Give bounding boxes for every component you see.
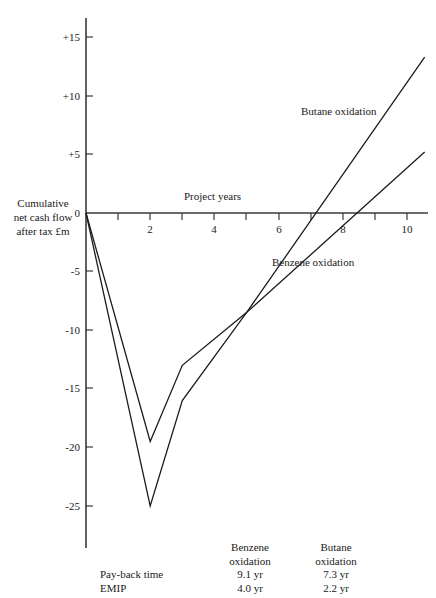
x-tick-label-4: 4 (200, 223, 228, 235)
y-tick-label-10: +10 (42, 90, 80, 102)
summary-row-label-payback: Pay-back time (100, 568, 163, 582)
y-tick-label-neg10: -10 (42, 324, 80, 336)
y-axis-title-line-3: after tax £m (4, 224, 82, 238)
summary-cell-emip-butane: 2.2 yr (300, 582, 372, 596)
summary-col-butane-header-line-1: Butane (300, 541, 372, 555)
y-tick-label-5: +5 (42, 148, 80, 160)
summary-cell-payback-butane: 7.3 yr (300, 568, 372, 582)
y-tick-label-neg25: -25 (42, 500, 80, 512)
summary-table-row-labels: Pay-back time EMIP (100, 568, 163, 595)
y-tick-label-neg15: -15 (42, 382, 80, 394)
summary-cell-emip-benzene: 4.0 yr (214, 582, 286, 596)
x-axis-title: Project years (184, 190, 241, 202)
summary-col-butane-header-line-2: oxidation (300, 555, 372, 569)
chart-figure: Cumulative net cash flow after tax £m +1… (0, 0, 436, 598)
y-tick-label-15: +15 (42, 31, 80, 43)
summary-col-benzene-header-line-1: Benzene (214, 541, 286, 555)
x-tick-label-2: 2 (136, 223, 164, 235)
summary-column-butane: Butane oxidation 7.3 yr 2.2 yr (300, 541, 372, 595)
summary-cell-payback-benzene: 9.1 yr (214, 568, 286, 582)
summary-col-benzene-header-line-2: oxidation (214, 555, 286, 569)
y-tick-label-neg20: -20 (42, 441, 80, 453)
summary-row-label-emip: EMIP (100, 582, 163, 596)
x-tick-label-8: 8 (329, 223, 357, 235)
y-tick-label-neg5: -5 (42, 265, 80, 277)
summary-column-benzene: Benzene oxidation 9.1 yr 4.0 yr (214, 541, 286, 595)
x-tick-label-6: 6 (265, 223, 293, 235)
x-axis-ticks (118, 213, 407, 220)
series-annotation-benzene: Benzene oxidation (272, 256, 354, 268)
y-axis-ticks (86, 37, 93, 506)
y-tick-label-0: 0 (42, 207, 80, 219)
series-annotation-butane: Butane oxidation (301, 105, 376, 117)
x-tick-label-10: 10 (393, 223, 421, 235)
series-line-benzene-oxidation (86, 152, 425, 506)
